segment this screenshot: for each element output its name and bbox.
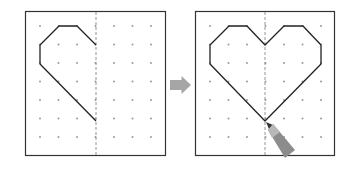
grid-dot	[265, 25, 267, 27]
grid-dot	[320, 25, 322, 27]
grid-dot	[150, 44, 152, 46]
grid-dot	[39, 81, 41, 83]
grid-dot	[246, 118, 248, 120]
panel-frame	[26, 12, 166, 156]
grid-dot	[246, 81, 248, 83]
grid-dot	[209, 118, 211, 120]
grid-dot	[76, 81, 78, 83]
grid-dot	[113, 99, 115, 101]
full-heart-panel	[196, 12, 335, 156]
grid-dot	[246, 136, 248, 138]
grid-dot	[58, 62, 60, 64]
grid-dot	[150, 118, 152, 120]
grid-dot	[132, 136, 134, 138]
grid-dot	[113, 118, 115, 120]
grid-dot	[228, 136, 230, 138]
grid-dot	[132, 62, 134, 64]
half-heart-panel	[26, 12, 166, 156]
grid-dot	[132, 81, 134, 83]
grid-dot	[132, 44, 134, 46]
grid-dot	[320, 118, 322, 120]
grid-dot	[150, 25, 152, 27]
grid-dot	[246, 44, 248, 46]
grid-dot	[150, 62, 152, 64]
grid-dot	[76, 136, 78, 138]
grid-dot	[209, 136, 211, 138]
grid-dot	[283, 81, 285, 83]
grid-dot	[39, 99, 41, 101]
grid-dot	[39, 118, 41, 120]
grid-dot	[320, 136, 322, 138]
grid-dot	[58, 99, 60, 101]
grid-dot	[228, 44, 230, 46]
grid-dot	[283, 118, 285, 120]
grid-dot	[228, 62, 230, 64]
grid-dot	[58, 44, 60, 46]
grid-dot	[209, 99, 211, 101]
grid-dot	[209, 81, 211, 83]
grid-dot	[283, 44, 285, 46]
grid-dot	[132, 99, 134, 101]
grid-dot	[302, 44, 304, 46]
grid-dot	[39, 136, 41, 138]
grid-dot	[76, 118, 78, 120]
grid-dot	[150, 136, 152, 138]
symmetry-diagram	[0, 0, 354, 172]
grid-dot	[58, 136, 60, 138]
grid-dot	[302, 118, 304, 120]
grid-dot	[320, 99, 322, 101]
grid-dot	[246, 62, 248, 64]
grid-dot	[76, 44, 78, 46]
grid-dot	[76, 62, 78, 64]
grid-dot	[132, 25, 134, 27]
grid-dot	[228, 99, 230, 101]
grid-dot	[95, 25, 97, 27]
right-arrow-icon	[170, 76, 191, 94]
grid-dot	[113, 44, 115, 46]
grid-dot	[302, 62, 304, 64]
grid-dot	[302, 136, 304, 138]
grid-dot	[302, 99, 304, 101]
grid-dot	[58, 118, 60, 120]
grid-dot	[150, 99, 152, 101]
grid-dot	[113, 25, 115, 27]
grid-dot	[132, 118, 134, 120]
grid-dot	[39, 25, 41, 27]
grid-dot	[113, 81, 115, 83]
grid-dot	[113, 62, 115, 64]
grid-dot	[113, 136, 115, 138]
grid-dot	[228, 118, 230, 120]
grid-dot	[150, 81, 152, 83]
grid-dot	[283, 62, 285, 64]
grid-dot	[209, 25, 211, 27]
grid-dot	[320, 81, 322, 83]
